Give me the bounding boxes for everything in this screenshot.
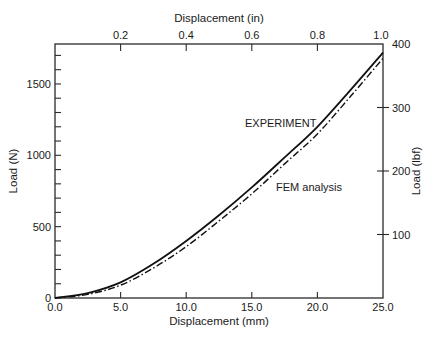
x-tick-label: 15.0 xyxy=(241,301,262,313)
axis-ticks: 0.05.010.015.020.025.00.20.40.60.81.0050… xyxy=(27,29,411,313)
x2-tick-label: 0.4 xyxy=(179,29,194,41)
x2-tick-label: 0.2 xyxy=(113,29,128,41)
y2-tick-label: 200 xyxy=(392,165,410,177)
y2-axis-title: Load (lbf) xyxy=(410,147,422,196)
y2-tick-label: 300 xyxy=(392,102,410,114)
y-tick-label: 1000 xyxy=(27,149,51,161)
experiment-label: EXPERIMENT xyxy=(245,117,317,129)
y2-tick-label: 400 xyxy=(392,38,410,50)
load-displacement-chart: 0.05.010.015.020.025.00.20.40.60.81.0050… xyxy=(0,0,436,339)
x2-tick-label: 1.0 xyxy=(373,29,388,41)
data-series xyxy=(55,53,383,298)
x2-tick-label: 0.8 xyxy=(310,29,325,41)
fem-analysis-label: FEM analysis xyxy=(276,181,343,193)
x-tick-label: 25.0 xyxy=(372,301,393,313)
y-tick-label: 1500 xyxy=(27,78,51,90)
y2-tick-label: 100 xyxy=(392,229,410,241)
fem-analysis-curve xyxy=(55,58,383,298)
x-tick-label: 20.0 xyxy=(307,301,328,313)
x-tick-label: 10.0 xyxy=(175,301,196,313)
x-tick-label: 5.0 xyxy=(113,301,128,313)
plot-frame xyxy=(55,44,383,298)
y-tick-label: 0 xyxy=(45,292,51,304)
x2-axis-title: Displacement (in) xyxy=(174,12,264,24)
x2-tick-label: 0.6 xyxy=(244,29,259,41)
plot-border xyxy=(55,44,383,298)
x-axis-title: Displacement (mm) xyxy=(169,315,269,327)
y-axis-title: Load (N) xyxy=(7,148,19,193)
y-tick-label: 500 xyxy=(33,221,51,233)
experiment-curve xyxy=(55,53,383,298)
